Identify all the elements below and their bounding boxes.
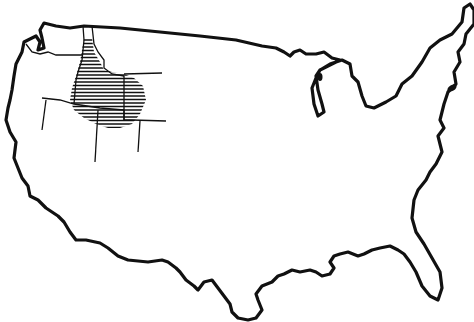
us-outline (6, 4, 474, 320)
us-outline-map (0, 0, 474, 322)
state-borders (26, 26, 166, 162)
hatched-region (60, 40, 160, 128)
lake-michigan-marker (318, 73, 323, 81)
